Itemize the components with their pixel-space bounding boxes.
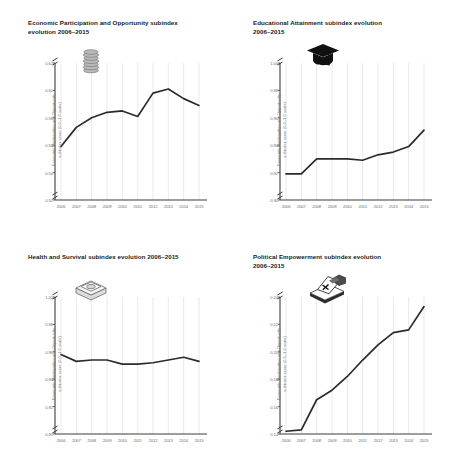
y-tick-label: 0.90 bbox=[33, 432, 53, 437]
x-tick-label: 2015 bbox=[190, 438, 208, 443]
y-tick-labels: 1.000.980.960.940.920.90 bbox=[33, 289, 53, 439]
y-tick-label: 0.24 bbox=[258, 295, 278, 300]
chart-panel-health-survival: Health and Survival subindex evolution 2… bbox=[0, 234, 225, 467]
y-tick-labels: 1.000.980.960.940.920.90 bbox=[258, 55, 278, 205]
y-tick-label: 0.90 bbox=[258, 198, 278, 203]
x-tick-labels: 2006200720082009201020112012201320142015 bbox=[280, 204, 432, 216]
y-tick-label: 0.16 bbox=[258, 404, 278, 409]
y-tick-label: 0.14 bbox=[258, 432, 278, 437]
y-tick-labels: 0.620.600.580.560.540.52 bbox=[33, 55, 53, 205]
y-tick-label: 0.54 bbox=[33, 170, 53, 175]
y-tick-label: 0.92 bbox=[33, 404, 53, 409]
y-tick-label: 1.00 bbox=[33, 295, 53, 300]
x-tick-label: 2015 bbox=[190, 204, 208, 209]
y-tick-label: 0.22 bbox=[258, 322, 278, 327]
data-series-line bbox=[286, 307, 424, 432]
y-tick-label: 0.60 bbox=[33, 88, 53, 93]
y-tick-label: 0.62 bbox=[33, 61, 53, 66]
chart-panel-political-empowerment: Political Empowerment subindex evolution… bbox=[225, 234, 450, 467]
y-tick-label: 0.56 bbox=[33, 143, 53, 148]
chart-panel-educational-attainment: Educational Attainment subindex evolutio… bbox=[225, 0, 450, 233]
y-tick-label: 0.20 bbox=[258, 349, 278, 354]
plot-area: Economic Participation and Opportunity s… bbox=[280, 294, 432, 434]
chart-title: Educational Attainment subindex evolutio… bbox=[253, 19, 435, 37]
x-tick-label: 2015 bbox=[415, 204, 433, 209]
y-tick-label: 0.18 bbox=[258, 377, 278, 382]
line-chart-svg bbox=[55, 60, 207, 210]
line-chart-svg bbox=[55, 294, 207, 444]
y-tick-label: 0.96 bbox=[33, 349, 53, 354]
y-tick-label: 0.58 bbox=[33, 115, 53, 120]
data-series-line bbox=[61, 89, 199, 147]
y-tick-label: 0.98 bbox=[33, 322, 53, 327]
plot-area: Economic Participation and Opportunity s… bbox=[280, 60, 432, 200]
y-tick-label: 0.92 bbox=[258, 170, 278, 175]
x-tick-label: 2015 bbox=[415, 438, 433, 443]
chart-title: Health and Survival subindex evolution 2… bbox=[28, 253, 210, 262]
chart-panel-economic-participation: Economic Participation and Opportunity s… bbox=[0, 0, 225, 233]
chart-title: Political Empowerment subindex evolution… bbox=[253, 253, 435, 271]
chart-title: Economic Participation and Opportunity s… bbox=[28, 19, 210, 37]
line-chart-svg bbox=[280, 60, 432, 210]
y-tick-label: 0.94 bbox=[33, 377, 53, 382]
y-tick-label: 1.00 bbox=[258, 61, 278, 66]
y-tick-label: 0.98 bbox=[258, 88, 278, 93]
data-series-line bbox=[61, 355, 199, 365]
x-tick-labels: 2006200720082009201020112012201320142015 bbox=[55, 204, 207, 216]
y-tick-label: 0.96 bbox=[258, 115, 278, 120]
x-tick-labels: 2006200720082009201020112012201320142015 bbox=[280, 438, 432, 450]
plot-area: Economic Participation and Opportunity s… bbox=[55, 294, 207, 434]
plot-area: Economic Participation and Opportunity s… bbox=[55, 60, 207, 200]
y-tick-label: 0.52 bbox=[33, 198, 53, 203]
y-tick-labels: 0.240.220.200.180.160.14 bbox=[258, 289, 278, 439]
y-tick-label: 0.94 bbox=[258, 143, 278, 148]
x-tick-labels: 2006200720082009201020112012201320142015 bbox=[55, 438, 207, 450]
line-chart-svg bbox=[280, 294, 432, 444]
figure-sheet: Economic Participation and Opportunity s… bbox=[0, 0, 450, 467]
data-series-line bbox=[286, 130, 424, 174]
